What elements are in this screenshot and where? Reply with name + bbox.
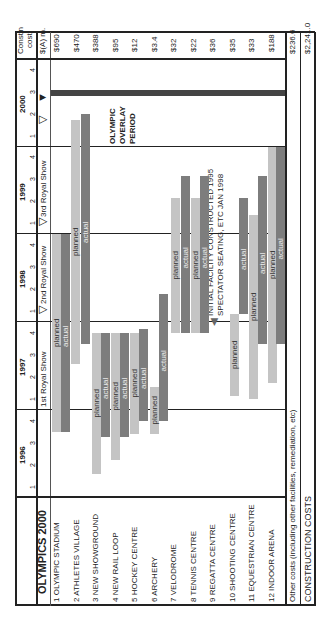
row-label: 6 ARCHERY <box>150 557 159 602</box>
row-label: 3 NEW SHOWGROUND <box>91 514 100 602</box>
row-cost: $32 <box>169 39 178 52</box>
planned-bar-label: planned <box>171 251 180 279</box>
actual-bar-label: actual <box>101 378 110 399</box>
other-costs-value: $236.6 <box>288 30 298 54</box>
year-1996: 1996 <box>18 446 28 464</box>
olympics-marker-icon: ▼ <box>37 92 47 103</box>
row-label: 12 INDOOR ARENA <box>267 530 276 602</box>
row-label: 11 EQUESTRIAN CENTRE <box>247 504 256 602</box>
footer-divider <box>285 32 287 606</box>
row-cost: $12 <box>130 39 139 52</box>
quarter-tick: 1 <box>28 485 38 489</box>
actual-bar-label: actual <box>81 222 90 243</box>
actual-bar-label: actual <box>139 368 148 389</box>
olympics-period-bar <box>51 90 285 96</box>
overlay-label-1: OLYMPIC <box>108 108 118 144</box>
row-label: 5 HOCKEY CENTRE <box>130 527 139 602</box>
row-label: 8 TENNIS CENTRE <box>189 531 198 602</box>
row-label: 7 VELODROME <box>169 544 178 602</box>
actual-bar-label: actual <box>200 247 209 268</box>
actual-bar-label: actual <box>61 326 70 347</box>
label-column-divider <box>15 497 286 499</box>
planned-bar-label: planned <box>130 369 139 397</box>
regatta-note-2: SPECTATOR SEATING, ETC JAN 1998 <box>216 174 226 316</box>
year-1999: 1999 <box>18 183 28 201</box>
year-1998: 1998 <box>18 270 28 288</box>
row-cost: $690 <box>52 34 61 52</box>
planned-bar-label: planned <box>191 251 200 279</box>
planned-bar-label: planned <box>230 341 239 369</box>
quarter-tick: 4 <box>28 68 38 72</box>
actual-bar-label: actual <box>239 249 248 270</box>
quarter-tick: 3 <box>28 265 38 269</box>
actual-bar-label: actual <box>276 238 285 259</box>
row-cost: $22 <box>189 39 198 52</box>
actual-bar-label: actual <box>258 253 267 274</box>
quarter-tick: 1 <box>28 134 38 138</box>
cost-column-divider <box>15 59 286 61</box>
overlay-label-2: OVERLAY <box>118 106 128 144</box>
footer-row-divider <box>300 32 301 606</box>
quarter-tick: 2 <box>28 375 38 379</box>
construction-costs-label: CONSTRUCTION COSTS <box>303 496 313 602</box>
chart-title: OLYMPICS 2000 <box>37 510 47 594</box>
actual-bar-label: actual <box>159 350 168 371</box>
show-2: 2nd Royal Show <box>39 246 49 304</box>
other-costs-label: Other costs (including other facilities,… <box>288 409 298 602</box>
row-label: 10 SHOOTING CENTRE <box>228 513 237 602</box>
row-cost: $3.4 <box>150 36 159 52</box>
regatta-marker-icon: ◀ <box>209 318 219 326</box>
row-label: 2 ATHLETES VILLAGE <box>72 519 81 602</box>
planned-bar-label: planned <box>150 396 159 424</box>
row-cost: $470 <box>72 34 81 52</box>
show-2-marker-icon: ▽ <box>37 306 47 314</box>
planned-bar-label: planned <box>52 319 61 347</box>
actual-bar-label: actual <box>120 378 129 399</box>
quarter-tick: 3 <box>28 441 38 445</box>
planned-bar-label: planned <box>249 293 258 321</box>
frame-bottom <box>314 32 316 606</box>
quarter-tick: 4 <box>28 243 38 247</box>
overlay-label-3: PERIOD <box>128 113 138 144</box>
row-label: 4 NEW RAIL LOOP <box>111 533 120 603</box>
quarter-tick: 3 <box>28 353 38 357</box>
year-2000: 2000 <box>18 95 28 113</box>
construction-costs-value: $2,241.0 <box>303 23 313 54</box>
quarter-tick: 4 <box>28 155 38 159</box>
frame-right <box>15 32 315 34</box>
gantt-chart: OLYMPICS 2000 1996 1997 1998 1999 2000 1… <box>0 0 325 634</box>
show-3-marker-icon: ▽ <box>37 218 47 226</box>
planned-bar-label: planned <box>111 382 120 410</box>
frame-left <box>15 605 315 607</box>
show-3: 3rd Royal Show <box>39 161 49 217</box>
actual-bar-label: actual <box>181 247 190 268</box>
cost-header-3: $(A) m. <box>38 28 48 54</box>
quarter-tick: 1 <box>28 397 38 401</box>
row-cost: $95 <box>111 39 120 52</box>
quarter-tick: 2 <box>28 463 38 467</box>
row-cost: $388 <box>91 34 100 52</box>
planned-bar-label: planned <box>71 228 80 256</box>
cost-header-2: cost <box>25 33 35 48</box>
quarter-tick: 4 <box>28 331 38 335</box>
subheader-divider <box>50 32 51 606</box>
row-cost: $188 <box>267 34 276 52</box>
year-1997: 1997 <box>18 358 28 376</box>
quarter-tick: 2 <box>28 199 38 203</box>
overlay-start-marker-icon: ▽ <box>37 116 47 124</box>
show-1: 1st Royal Show <box>39 351 49 407</box>
row-cost: $33 <box>247 39 256 52</box>
row-label: 9 REGATTA CENTRE <box>208 524 217 602</box>
year-divider-2000 <box>15 146 286 147</box>
frame-top <box>15 32 17 606</box>
quarter-tick: 2 <box>28 287 38 291</box>
quarter-tick: 4 <box>28 419 38 423</box>
row-cost: $36 <box>208 39 217 52</box>
planned-bar-label: planned <box>92 389 101 417</box>
row-cost: $35 <box>228 39 237 52</box>
quarter-tick: 3 <box>28 177 38 181</box>
row-label: 1 OLYMPIC STADIUM <box>52 522 61 602</box>
